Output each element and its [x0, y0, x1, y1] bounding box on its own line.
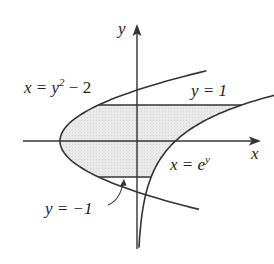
parabola-label-tail: − 2 — [65, 78, 92, 97]
region-diagram: y x x = y2 − 2 y = 1 x = ey y = −1 — [0, 0, 274, 264]
exponential-label-base: x = e — [169, 155, 206, 174]
pointer-arrowhead-icon — [120, 179, 127, 186]
x-axis-label: x — [250, 144, 259, 163]
parabola-label: x = y2 − 2 — [23, 76, 91, 97]
parabola-label-base: x = y — [23, 78, 60, 97]
lower-bound-label: y = −1 — [43, 199, 93, 218]
exponential-label-exponent: y — [204, 153, 210, 165]
y-axis-label: y — [116, 19, 126, 38]
upper-bound-label: y = 1 — [189, 81, 227, 100]
exponential-label: x = ey — [169, 153, 210, 174]
